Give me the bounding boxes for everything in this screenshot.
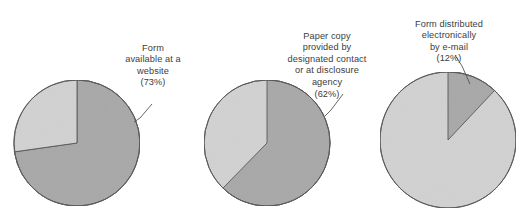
- pie-2-label-text: Paper copy provided by designated contac…: [288, 31, 367, 87]
- pie-1-label: Form available at a website (73%): [116, 31, 190, 101]
- pie-3-label: Form distributed electronically by e-mai…: [390, 7, 508, 77]
- pie-1-leader-line: [134, 104, 152, 122]
- pie-1-label-text: Form available at a website: [125, 43, 181, 76]
- pie-3-label-percent: (12%): [390, 53, 508, 65]
- pie-2-label-percent: (62%): [269, 89, 385, 101]
- pie-chart-figure: Form available at a website (73%) Paper …: [0, 0, 516, 219]
- pie-2-label: Paper copy provided by designated contac…: [269, 19, 385, 112]
- pie-3-label-text: Form distributed electronically by e-mai…: [415, 19, 483, 52]
- pie-chart-3: [380, 72, 516, 208]
- pie-1-slice-other: [14, 80, 77, 152]
- pie-1-label-percent: (73%): [116, 77, 190, 89]
